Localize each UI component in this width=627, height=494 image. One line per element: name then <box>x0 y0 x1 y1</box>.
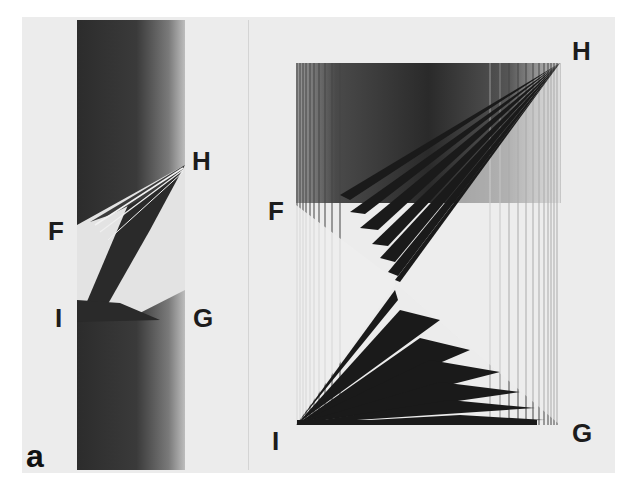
right-label-i: I <box>272 428 279 454</box>
left-label-h: H <box>192 148 211 174</box>
left-label-f: F <box>48 218 64 244</box>
left-label-g: G <box>193 305 213 331</box>
left-label-i: I <box>55 305 62 331</box>
right-label-f: F <box>268 198 284 224</box>
figure-graphics <box>0 0 627 494</box>
right-diagram <box>296 63 561 425</box>
panel-label-a: a <box>26 440 44 472</box>
right-label-h: H <box>572 38 591 64</box>
right-label-g: G <box>572 420 592 446</box>
left-photo <box>77 20 185 470</box>
